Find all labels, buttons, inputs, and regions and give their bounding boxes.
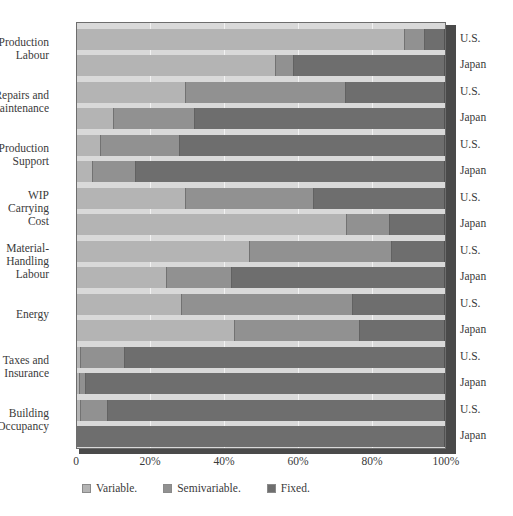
bar-segment-fixed — [390, 214, 445, 235]
bar-segment-fixed — [232, 267, 445, 288]
country-label-japan: Japan — [460, 376, 486, 389]
bar-segment-fixed — [425, 29, 445, 50]
category-label-line: Material- — [0, 242, 49, 255]
category-label: Repairs andMaintenance — [0, 89, 49, 115]
bar-row — [77, 214, 445, 235]
category-label-line: Repairs and — [0, 89, 49, 102]
stacked-bar-chart: ProductionLabourRepairs andMaintenancePr… — [0, 0, 513, 516]
bar-segment-fixed — [180, 135, 445, 156]
bar-segment-semivariable — [114, 108, 195, 129]
bar-segment-fixed — [86, 373, 445, 394]
chart-legend: Variable. Semivariable. Fixed. — [82, 482, 310, 494]
bar-segment-variable — [77, 161, 93, 182]
country-label-japan: Japan — [460, 111, 486, 124]
country-label-us: U.S. — [460, 85, 480, 98]
country-label-us: U.S. — [460, 297, 480, 310]
bar-segment-variable — [77, 241, 250, 262]
bar-segment-semivariable — [235, 320, 360, 341]
x-axis: 020%40%60%80%100% — [0, 455, 513, 477]
x-axis-tick: 100% — [433, 455, 460, 467]
bar-segment-fixed — [353, 294, 445, 315]
bar-row — [77, 82, 445, 103]
bar-row — [77, 294, 445, 315]
bar-segment-semivariable — [250, 241, 392, 262]
bar-rows — [77, 23, 445, 448]
category-label-line: Insurance — [0, 367, 49, 380]
bar-segment-fixed — [346, 82, 445, 103]
legend-swatch-fixed-icon — [267, 484, 276, 493]
country-label-us: U.S. — [460, 350, 480, 363]
category-label-line: Production — [0, 142, 49, 155]
category-label-line: Labour — [0, 268, 49, 281]
bar-segment-semivariable — [81, 347, 125, 368]
plot-area — [76, 22, 446, 449]
bar-row — [77, 161, 445, 182]
bar-row — [77, 55, 445, 76]
category-label-line: WIP — [0, 189, 49, 202]
bar-row — [77, 347, 445, 368]
category-label-line: Taxes and — [0, 354, 49, 367]
bar-segment-fixed — [136, 161, 445, 182]
bar-segment-fixed — [195, 108, 445, 129]
category-label: ProductionSupport — [0, 142, 49, 168]
country-label-japan: Japan — [460, 323, 486, 336]
bar-segment-fixed — [125, 347, 445, 368]
bar-segment-fixed — [360, 320, 445, 341]
legend-item-variable: Variable. — [82, 482, 137, 494]
bar-segment-semivariable — [186, 82, 346, 103]
bar-row — [77, 108, 445, 129]
legend-label-variable: Variable. — [96, 482, 137, 494]
bar-segment-semivariable — [93, 161, 136, 182]
legend-swatch-variable-icon — [82, 484, 91, 493]
bar-row — [77, 241, 445, 262]
bar-segment-semivariable — [186, 188, 315, 209]
x-axis-tick: 20% — [139, 455, 160, 467]
category-label: BuildingOccupancy — [0, 407, 49, 433]
bar-segment-variable — [77, 29, 405, 50]
category-label-line: Support — [0, 155, 49, 168]
country-label-us: U.S. — [460, 32, 480, 45]
country-label-us: U.S. — [460, 403, 480, 416]
bar-segment-semivariable — [276, 55, 294, 76]
bar-segment-semivariable — [182, 294, 353, 315]
category-label: Material-HandlingLabour — [0, 242, 49, 281]
x-axis-tick: 60% — [287, 455, 308, 467]
legend-item-semivariable: Semivariable. — [163, 482, 241, 494]
bar-segment-variable — [77, 108, 114, 129]
bar-segment-fixed — [392, 241, 445, 262]
category-label-line: Production — [0, 36, 49, 49]
category-label: Energy — [0, 308, 49, 321]
category-label-line: Occupancy — [0, 420, 49, 433]
bar-segment-variable — [77, 55, 276, 76]
bar-segment-semivariable — [81, 400, 109, 421]
bar-row — [77, 267, 445, 288]
bar-row — [77, 29, 445, 50]
x-axis-tick: 40% — [213, 455, 234, 467]
bar-segment-fixed — [314, 188, 445, 209]
legend-label-semivariable: Semivariable. — [177, 482, 241, 494]
bar-segment-fixed — [294, 55, 445, 76]
category-label-line: Cost — [0, 215, 49, 228]
country-label-japan: Japan — [460, 217, 486, 230]
category-label: ProductionLabour — [0, 36, 49, 62]
bar-segment-variable — [77, 294, 182, 315]
category-label-line: Maintenance — [0, 102, 49, 115]
bar-row — [77, 320, 445, 341]
country-label-us: U.S. — [460, 138, 480, 151]
legend-swatch-semivariable-icon — [163, 484, 172, 493]
bar-row — [77, 426, 445, 447]
country-label-japan: Japan — [460, 429, 486, 442]
country-label-us: U.S. — [460, 191, 480, 204]
bar-segment-semivariable — [405, 29, 425, 50]
country-label-japan: Japan — [460, 164, 486, 177]
country-label-us: U.S. — [460, 244, 480, 257]
bar-row — [77, 373, 445, 394]
category-label-line: Carrying — [0, 202, 49, 215]
x-axis-tick: 80% — [361, 455, 382, 467]
x-axis-tick: 0 — [73, 455, 79, 467]
bar-segment-variable — [77, 320, 235, 341]
country-label-japan: Japan — [460, 58, 486, 71]
bar-segment-semivariable — [347, 214, 389, 235]
category-label-line: Building — [0, 407, 49, 420]
category-label-line: Handling — [0, 255, 49, 268]
